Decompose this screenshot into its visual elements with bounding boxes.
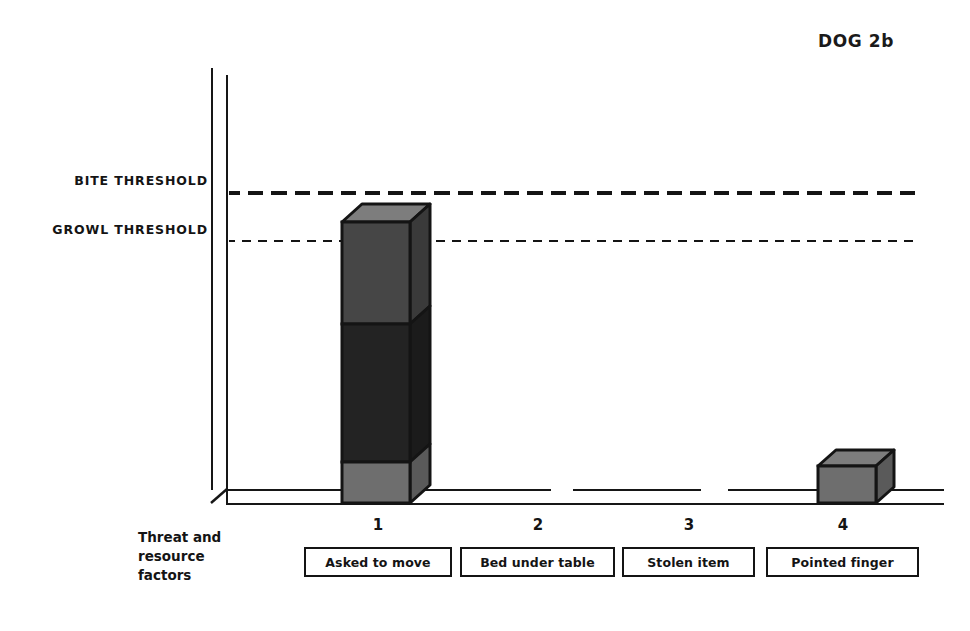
- category-number-2: 2: [463, 516, 613, 534]
- category-label-box-3[interactable]: Stolen item: [622, 547, 755, 577]
- growl-threshold-label: GROWL THRESHOLD: [18, 222, 208, 237]
- category-number-3: 3: [614, 516, 764, 534]
- bar-category-1[interactable]: [340, 200, 432, 505]
- floor-back-line-segment: [430, 489, 551, 491]
- chart-canvas: DOG 2b BITE THRESHOLD GROWL THRESHOLD: [0, 0, 970, 631]
- category-label-box-1[interactable]: Asked to move: [304, 547, 452, 577]
- floor-back-line-segment: [728, 489, 818, 491]
- x-axis-caption-line-1: Threat and: [138, 528, 268, 547]
- x-axis-caption-line-2: resource: [138, 547, 268, 566]
- floor-back-line-segment: [573, 489, 701, 491]
- bite-threshold-label: BITE THRESHOLD: [36, 173, 208, 188]
- bar-category-4[interactable]: [816, 446, 896, 506]
- category-number-1: 1: [303, 516, 453, 534]
- chart-title: DOG 2b: [818, 31, 894, 51]
- category-label-box-4[interactable]: Pointed finger: [766, 547, 919, 577]
- y-axis-back-edge: [211, 68, 213, 490]
- x-axis-caption: Threat and resource factors: [138, 528, 268, 585]
- growl-threshold-line: [229, 240, 919, 242]
- category-label-box-2[interactable]: Bed under table: [460, 547, 615, 577]
- y-axis-front-edge: [226, 75, 228, 503]
- x-axis-caption-line-3: factors: [138, 566, 268, 585]
- category-number-4: 4: [768, 516, 918, 534]
- bite-threshold-line: [229, 191, 919, 195]
